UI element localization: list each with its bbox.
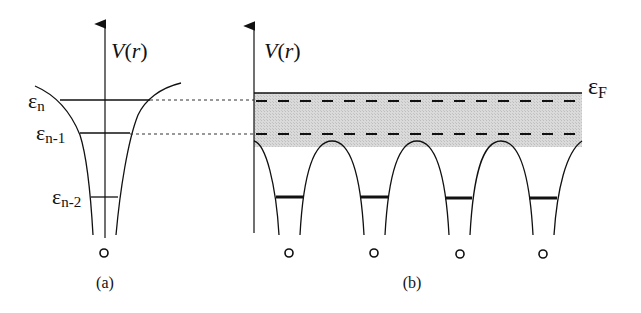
panel-a-caption: (a) <box>96 274 114 292</box>
potential-well-diagram: V(r) εn εn-1 εn-2 (a) V(r) <box>0 0 641 313</box>
panel-b-ion-icon <box>539 250 547 258</box>
panel-b-ion-icon <box>370 249 378 257</box>
panel-a-axis-label: V(r) <box>111 38 148 63</box>
panel-a-ion-icon <box>100 249 108 257</box>
panel-b-caption: (b) <box>403 274 422 292</box>
panel-b: V(r) εF (b) <box>254 26 607 292</box>
level-en2-label: εn-2 <box>52 184 81 210</box>
fermi-level-label: εF <box>588 73 607 101</box>
level-en-label: εn <box>28 88 45 114</box>
periodic-potential-curve <box>254 141 582 235</box>
panel-b-axis-label: V(r) <box>264 38 301 63</box>
panel-a-well-right-curve <box>116 83 181 235</box>
panel-a: V(r) εn εn-1 εn-2 (a) <box>28 24 181 292</box>
panel-b-ion-icon <box>285 249 293 257</box>
panel-b-ion-icon <box>456 250 464 258</box>
level-en1-label: εn-1 <box>36 120 65 146</box>
